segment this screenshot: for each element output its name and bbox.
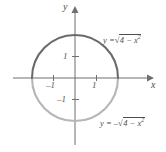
x-axis-label: x xyxy=(151,80,155,90)
lower-curve-lhs: y = – xyxy=(100,118,118,128)
math-graph-figure: y x –1 1 1 –1 y =√4 − x2 y = –√4 − x2 xyxy=(0,0,166,152)
upper-curve-exponent: 2 xyxy=(138,34,141,40)
lower-curve-equation-label: y = –√4 − x2 xyxy=(100,117,145,127)
upper-curve-radical-sign: √ xyxy=(115,36,120,45)
upper-curve-radicand: 4 − x2 xyxy=(119,34,141,44)
upper-curve-lhs: y = xyxy=(103,35,115,45)
x-tick-label-pos1: 1 xyxy=(92,81,97,90)
lower-curve-radical-sign: √ xyxy=(118,119,123,128)
graph-canvas xyxy=(0,0,166,152)
lower-curve-exponent: 2 xyxy=(141,117,144,123)
y-axis-arrowhead xyxy=(72,6,79,13)
y-tick-label-neg1: –1 xyxy=(57,95,66,104)
upper-curve-equation-label: y =√4 − x2 xyxy=(103,34,141,44)
lower-curve-radicand: 4 − x2 xyxy=(123,117,145,127)
y-tick-label-pos1: 1 xyxy=(63,52,68,61)
y-axis-label: y xyxy=(63,2,67,12)
x-tick-label-neg1: –1 xyxy=(46,81,55,90)
